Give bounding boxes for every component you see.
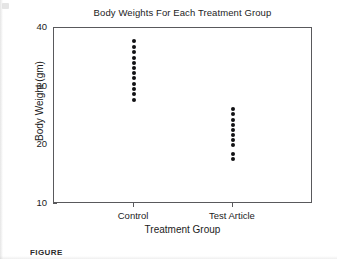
data-point (231, 112, 235, 116)
chart-title: Body Weights For Each Treatment Group (53, 7, 312, 18)
data-point (132, 87, 136, 91)
y-tick-mark (53, 203, 57, 204)
x-tick-mark (133, 203, 134, 207)
x-tick-label: Control (88, 210, 178, 221)
y-tick-label: 40 (23, 22, 47, 32)
scan-artifact-smudge (2, 3, 9, 9)
data-point (231, 157, 235, 161)
data-point (231, 118, 235, 122)
data-point (132, 50, 136, 54)
data-point (132, 71, 136, 75)
data-point (132, 61, 136, 65)
data-point (231, 138, 235, 142)
data-point (132, 76, 136, 80)
data-point (132, 66, 136, 70)
data-point (132, 45, 136, 49)
figure-caption-fragment: FIGURE (30, 249, 90, 256)
data-point (132, 39, 136, 43)
y-axis-title-container: Body Weight (gm) (14, 45, 30, 185)
scan-edge-shadow-left (0, 0, 3, 259)
plot-frame (53, 27, 312, 203)
y-axis-title: Body Weight (gm) (34, 31, 46, 171)
data-point (231, 128, 235, 132)
data-point (231, 133, 235, 137)
data-point (132, 92, 136, 96)
data-point (231, 107, 235, 111)
data-point (132, 98, 136, 102)
data-point (231, 123, 235, 127)
data-point (132, 56, 136, 60)
x-tick-mark (232, 203, 233, 207)
x-axis-title: Treatment Group (53, 224, 312, 236)
plot-area (54, 28, 311, 202)
y-tick-label: 30 (23, 81, 47, 91)
data-point (231, 152, 235, 156)
data-point (231, 143, 235, 147)
figure-container: Body Weights For Each Treatment Group Bo… (0, 0, 337, 259)
data-point (132, 82, 136, 86)
y-tick-label: 10 (23, 198, 47, 208)
y-tick-label: 20 (23, 139, 47, 149)
x-tick-label: Test Article (187, 210, 277, 221)
